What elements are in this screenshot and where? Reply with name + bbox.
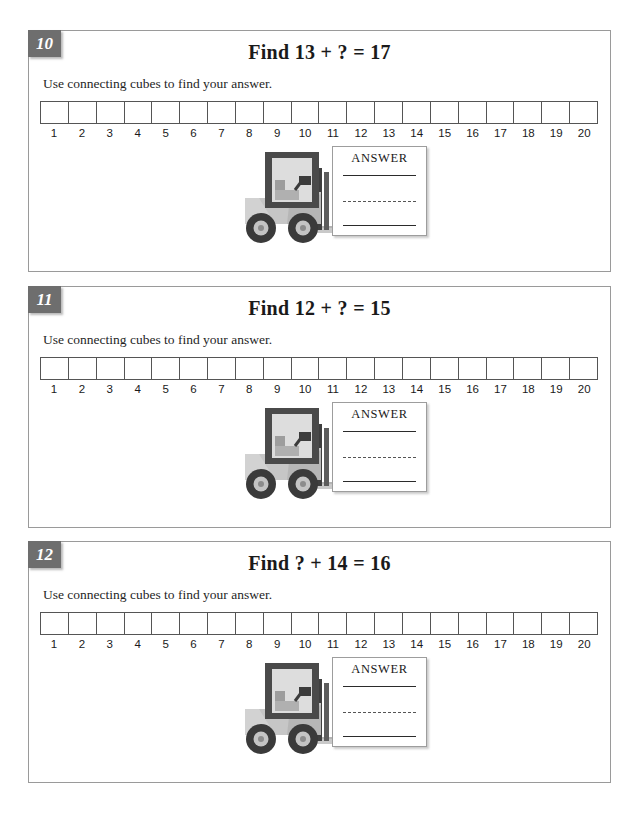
answer-rule-bottom [343,481,416,482]
number-line-cell[interactable] [514,102,542,123]
number-line-cell[interactable] [570,358,597,379]
number-line-cell[interactable] [69,102,97,123]
number-line-label: 5 [152,127,180,139]
number-line-cell[interactable] [180,358,208,379]
number-line-cell[interactable] [347,613,375,634]
number-line-cell[interactable] [208,102,236,123]
number-line-cell[interactable] [236,358,264,379]
answer-rule-middle [343,201,416,202]
number-line-cell[interactable] [542,358,570,379]
number-line-cell[interactable] [487,358,515,379]
number-line-label: 16 [459,383,487,395]
answer-box-label: ANSWER [333,151,426,166]
number-line-cell[interactable] [41,102,69,123]
number-line-cell[interactable] [152,613,180,634]
number-line-cell[interactable] [403,613,431,634]
number-line-label: 16 [459,638,487,650]
number-line-label: 12 [347,383,375,395]
number-line-cell[interactable] [292,358,320,379]
number-line-cell[interactable] [431,102,459,123]
number-line-cell[interactable] [375,613,403,634]
number-line-cells[interactable] [40,101,598,124]
number-line-cell[interactable] [264,358,292,379]
number-line-cell[interactable] [459,102,487,123]
answer-rule-bottom [343,225,416,226]
number-line-cell[interactable] [459,358,487,379]
number-line-cells[interactable] [40,357,598,380]
number-line-cell[interactable] [180,102,208,123]
number-line-cell[interactable] [514,613,542,634]
answer-rule-middle [343,457,416,458]
number-line-label: 2 [68,127,96,139]
number-line-label: 13 [375,638,403,650]
number-line-cell[interactable] [375,358,403,379]
number-line-cell[interactable] [431,358,459,379]
number-line-cell[interactable] [97,102,125,123]
number-line-label: 2 [68,383,96,395]
number-line-labels: 1 2 3 4 5 6 7 8 9 10 11 12 13 14 15 16 1… [40,383,598,395]
number-line-cell[interactable] [487,613,515,634]
answer-rule-bottom [343,736,416,737]
number-line-cell[interactable] [97,358,125,379]
answer-box[interactable]: ANSWER [332,657,427,747]
problem-title: Find 12 + ? = 15 [29,297,610,320]
number-line-cell[interactable] [125,102,153,123]
number-line-cell[interactable] [152,358,180,379]
number-line-cell[interactable] [292,102,320,123]
number-line-cell[interactable] [487,102,515,123]
number-line-cell[interactable] [347,358,375,379]
number-line-cell[interactable] [125,613,153,634]
answer-rule-top [343,686,416,687]
number-line-cells[interactable] [40,612,598,635]
number-line-cell[interactable] [264,102,292,123]
number-line-cell[interactable] [41,613,69,634]
number-line-cell[interactable] [264,613,292,634]
number-line-cell[interactable] [542,102,570,123]
number-line-cell[interactable] [570,613,597,634]
number-line-cell[interactable] [514,358,542,379]
number-line-label: 6 [180,127,208,139]
number-line-cell[interactable] [375,102,403,123]
number-line-cell[interactable] [69,613,97,634]
number-line-label: 9 [263,638,291,650]
number-line: 1 2 3 4 5 6 7 8 9 10 11 12 13 14 15 16 1… [40,612,598,650]
number-line-cell[interactable] [41,358,69,379]
number-line-label: 14 [403,638,431,650]
number-line-cell[interactable] [292,613,320,634]
number-line-cell[interactable] [97,613,125,634]
number-line-cell[interactable] [236,102,264,123]
number-line-cell[interactable] [459,613,487,634]
number-line-label: 9 [263,383,291,395]
number-line-label: 10 [291,638,319,650]
number-line-label: 20 [570,383,598,395]
number-line-cell[interactable] [208,613,236,634]
number-line-cell[interactable] [403,358,431,379]
number-line-label: 7 [207,127,235,139]
number-line-label: 13 [375,383,403,395]
number-line-cell[interactable] [152,102,180,123]
number-line-label: 4 [124,383,152,395]
number-line-cell[interactable] [69,358,97,379]
number-line-cell[interactable] [570,102,597,123]
number-line-cell[interactable] [431,613,459,634]
number-line-label: 13 [375,127,403,139]
number-line-cell[interactable] [347,102,375,123]
number-line-cell[interactable] [180,613,208,634]
number-line-cell[interactable] [236,613,264,634]
number-line-cell[interactable] [319,358,347,379]
number-line-label: 3 [96,127,124,139]
number-line-cell[interactable] [319,613,347,634]
number-line-cell[interactable] [542,613,570,634]
number-line-cell[interactable] [403,102,431,123]
number-line-cell[interactable] [208,358,236,379]
answer-rule-top [343,175,416,176]
number-line-label: 4 [124,127,152,139]
illustration-area: ANSWER [229,146,479,264]
answer-box[interactable]: ANSWER [332,402,427,492]
number-line-label: 1 [40,638,68,650]
number-line-label: 18 [514,127,542,139]
number-line-cell[interactable] [319,102,347,123]
number-line-cell[interactable] [125,358,153,379]
answer-box[interactable]: ANSWER [332,146,427,236]
number-line-label: 3 [96,383,124,395]
